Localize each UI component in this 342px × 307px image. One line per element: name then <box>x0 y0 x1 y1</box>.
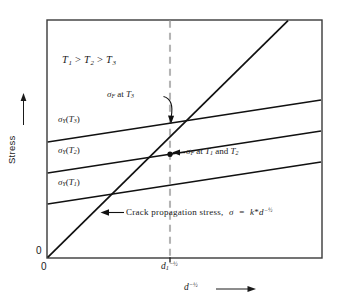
y-axis-origin-label: 0 <box>36 246 42 256</box>
intersection-marker-t2 <box>167 152 172 157</box>
crack-caption-text: Crack propagation stress, <box>126 207 223 217</box>
x-axis-origin-label: 0 <box>41 262 47 272</box>
temp-order-t1-sub: 1 <box>68 59 72 66</box>
sigma-f-t12-conj: and <box>213 146 231 156</box>
x-axis-tick-label-d1: d1−½ <box>161 262 178 272</box>
xtick-exp: −½ <box>169 260 178 267</box>
temp-order-t3-sub: 3 <box>113 59 117 66</box>
annotation-crack-propagation: Crack propagation stress, σ = k*d−½ <box>126 208 273 217</box>
xaxis-title-exp: −½ <box>189 281 198 288</box>
y-axis-title: Stress <box>7 135 17 164</box>
curve-label-sigma-y-t2: σY(T2) <box>58 146 80 155</box>
curve-label-sigma-y-t3: σY(T3) <box>58 115 80 124</box>
crack-exponent: −½ <box>264 207 273 213</box>
crack-sigma: σ <box>229 207 234 217</box>
ys-t1-close: ) <box>77 177 80 187</box>
figure-container: T1>T2>T3 σF at T3 σF at T1 and T2 Crack … <box>0 0 342 307</box>
annotation-sigma-f-t1-t2: σF at T1 and T2 <box>186 147 239 156</box>
sigma-f-t12-text: at <box>194 146 205 156</box>
sigma-f-t3-temp-sub: 3 <box>131 93 134 99</box>
ys-t2-close: ) <box>77 145 80 155</box>
sigma-f-t3-text: at <box>115 89 126 99</box>
x-axis-title: d−½ <box>184 283 198 293</box>
sigma-f-t12-temp-b-sub: 2 <box>236 150 239 156</box>
temperature-order-note: T1>T2>T3 <box>62 55 117 66</box>
temp-order-op1: > <box>73 54 85 65</box>
annotation-sigma-f-t3: σF at T3 <box>107 90 134 99</box>
x-axis-arrowhead <box>248 286 257 292</box>
ys-t3-close: ) <box>77 114 80 124</box>
curve-label-sigma-y-t1: σY(T1) <box>58 178 80 187</box>
crack-equals: = <box>239 207 244 217</box>
temp-order-op2: > <box>95 54 107 65</box>
y-axis-arrowhead <box>21 93 27 101</box>
temp-order-t2-sub: 2 <box>91 59 95 66</box>
